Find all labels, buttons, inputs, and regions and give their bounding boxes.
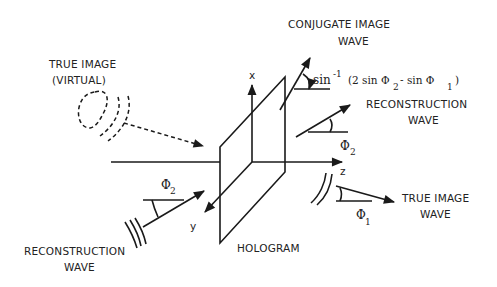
svg-text:1: 1 [447, 82, 453, 92]
reconstruction-right-label: RECONSTRUCTION [366, 98, 467, 110]
angle-formula: sin -1 (2 sin Φ 2 - sin Φ 1 ) [313, 69, 459, 92]
conjugate-angle-arc [303, 74, 310, 89]
svg-text:-1: -1 [333, 69, 342, 79]
true-image-label: TRUE IMAGE [48, 58, 116, 70]
virtual-wavefront-2 [108, 96, 129, 141]
axis-z-label: z [340, 165, 346, 177]
true-image-virtual-label: (VIRTUAL) [52, 74, 106, 86]
conjugate-wave-label: WAVE [338, 35, 369, 47]
hologram-diagram: x y z TRUE IMAGE (VIRTUAL) CONJUGATE IMA… [0, 0, 497, 287]
y-axis [205, 162, 252, 212]
svg-text:- sin Φ: - sin Φ [400, 74, 435, 86]
true-image-virtual-shape [78, 91, 107, 128]
true-image-wave-arrow [336, 186, 394, 202]
phi2-right-arc [330, 119, 332, 132]
virtual-wavefront-1 [100, 97, 119, 136]
recon-left-wavefront-1 [125, 222, 137, 248]
conjugate-label: CONJUGATE IMAGE [288, 18, 390, 30]
svg-text:(2 sin Φ: (2 sin Φ [348, 74, 390, 86]
true-image-wave-wave-label: WAVE [420, 208, 451, 220]
phi2-left-arc [152, 200, 158, 217]
virtual-ray-arrow [124, 123, 203, 146]
svg-text:2: 2 [393, 82, 399, 92]
reconstruction-left-label: RECONSTRUCTION [24, 245, 125, 257]
hologram-label: HOLOGRAM [237, 242, 300, 254]
reconstruction-left-wave-label: WAVE [64, 261, 95, 273]
axis-y-label: y [190, 220, 196, 232]
true-image-wave-label: TRUE IMAGE [401, 192, 469, 204]
phi1-sub: 1 [365, 217, 371, 227]
phi2-left-sub: 2 [170, 186, 176, 196]
reconstruction-right-wave-label: WAVE [408, 114, 439, 126]
diagram-canvas: x y z TRUE IMAGE (VIRTUAL) CONJUGATE IMA… [0, 0, 497, 287]
phi2-right-sub: 2 [350, 147, 356, 157]
phi1-arc [340, 188, 342, 201]
phi2-right-label: Φ [340, 139, 350, 153]
axis-x-label: x [249, 69, 255, 81]
svg-text:sin: sin [313, 73, 331, 87]
svg-text:): ) [455, 74, 459, 86]
